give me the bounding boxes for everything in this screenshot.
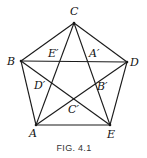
diagonal-BE (21, 61, 110, 125)
figure-4-1: C B D A E E′ A′ D′ B′ C′ FIG. 4.1 (0, 0, 147, 158)
label-A: A (28, 127, 37, 140)
label-D-prime: D′ (33, 79, 46, 92)
label-E-prime: E′ (47, 47, 59, 60)
vertex-dot-D (126, 61, 129, 64)
label-A-prime: A′ (88, 47, 100, 60)
label-C-prime: C′ (68, 103, 79, 116)
vertex-dot-A (35, 124, 38, 127)
vertex-dot-E (109, 124, 112, 127)
vertex-dot-C (73, 22, 76, 25)
diagonal-CE (74, 23, 110, 125)
label-E: E (106, 128, 115, 141)
label-C: C (70, 5, 79, 18)
label-B-prime: B′ (96, 80, 108, 93)
figure-caption: FIG. 4.1 (57, 143, 92, 153)
edge-CD (74, 23, 127, 62)
label-D: D (129, 56, 139, 69)
vertex-dot-B (20, 60, 23, 63)
pentagram-diagram: C B D A E E′ A′ D′ B′ C′ FIG. 4.1 (0, 0, 147, 158)
diagonal-AD (36, 62, 127, 125)
label-B: B (6, 55, 15, 68)
diagonal-BD (21, 61, 127, 62)
